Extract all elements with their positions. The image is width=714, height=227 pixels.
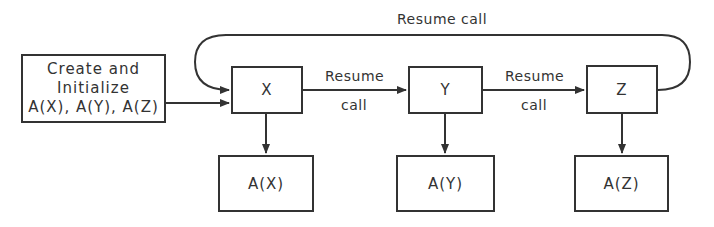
init-line-1: Create and <box>28 60 159 79</box>
edge-label-xy-top: Resume <box>325 68 384 84</box>
activation-label-x: A(X) <box>248 175 284 193</box>
activation-box-z: A(Z) <box>574 155 669 212</box>
coroutine-label-y: Y <box>440 81 450 99</box>
coroutine-box-x: X <box>231 66 303 114</box>
coroutine-box-y: Y <box>408 66 483 114</box>
edge-label-yz-bottom: call <box>521 97 547 113</box>
coroutine-label-x: X <box>261 81 272 99</box>
edge-label-resume-top: Resume call <box>397 11 487 27</box>
activation-label-z: A(Z) <box>603 175 639 193</box>
coroutine-box-z: Z <box>586 65 658 114</box>
edge-label-yz-top: Resume <box>505 68 564 84</box>
activation-label-y: A(Y) <box>428 175 463 193</box>
init-line-3: A(X), A(Y), A(Z) <box>28 98 159 117</box>
activation-box-x: A(X) <box>218 155 314 212</box>
activation-box-y: A(Y) <box>396 155 495 212</box>
edge-label-xy-bottom: call <box>341 97 367 113</box>
init-box: Create and Initialize A(X), A(Y), A(Z) <box>21 54 166 123</box>
coroutine-label-z: Z <box>616 81 627 99</box>
init-line-2: Initialize <box>28 79 159 98</box>
